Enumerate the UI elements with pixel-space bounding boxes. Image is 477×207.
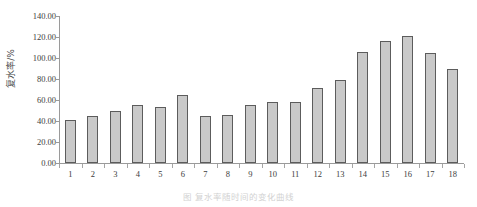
x-axis-tick-mark [374,164,375,168]
x-axis-tick-mark [329,164,330,168]
x-axis-tick-label: 15 [375,169,395,180]
bar [267,102,278,163]
bar [110,111,121,164]
x-axis-tick-label: 6 [173,169,193,180]
x-axis-tick-mark [352,164,353,168]
bar [402,36,413,163]
y-axis-tick-label: 80.00 [18,75,56,84]
x-axis-tick-mark [284,164,285,168]
y-axis-tick-label: 100.00 [18,54,56,63]
y-axis-tick-label: 0.00 [18,159,56,168]
figure-caption: 图 复水率随时间的变化曲线 [0,190,477,202]
x-axis-tick-label: 2 [83,169,103,180]
bar [87,116,98,163]
bar [357,52,368,163]
y-axis-tick-label: 40.00 [18,117,56,126]
x-axis-tick-mark [104,164,105,168]
x-axis-tick-mark [307,164,308,168]
x-axis-tick-label: 9 [240,169,260,180]
bar [155,107,166,163]
x-axis-tick-label: 16 [398,169,418,180]
x-axis-tick-label: 1 [60,169,80,180]
bar [65,120,76,163]
x-axis-tick-label: 13 [330,169,350,180]
bar [222,115,233,163]
x-axis-tick-mark [419,164,420,168]
bar [200,116,211,163]
x-axis-tick-mark [194,164,195,168]
bar [290,102,301,163]
y-axis-tick-label: 140.00 [18,12,56,21]
bar [380,41,391,163]
x-axis-tick-mark [82,164,83,168]
x-axis-tick-label: 14 [353,169,373,180]
bar [245,105,256,163]
x-axis-tick-mark [127,164,128,168]
x-axis-tick-label: 18 [443,169,463,180]
y-axis-tick-label: 20.00 [18,138,56,147]
bar-series [59,16,464,163]
bar [132,105,143,163]
y-axis-tick-labels: 140.00120.00100.0080.0060.0040.0020.000.… [18,12,56,168]
bar [177,95,188,163]
x-axis-tick-mark [149,164,150,168]
x-axis-tick-label: 7 [195,169,215,180]
x-axis-tick-label: 4 [128,169,148,180]
bar [312,88,323,163]
x-axis-tick-mark [217,164,218,168]
x-axis-tick-mark [59,164,60,168]
x-axis-tick-label: 3 [105,169,125,180]
chart-figure: 复水率/% 140.00120.00100.0080.0060.0040.002… [0,0,477,207]
x-axis-tick-labels: 123456789101112131415161718 [59,169,464,182]
x-axis-tick-mark [172,164,173,168]
x-axis-tick-label: 10 [263,169,283,180]
bar [447,69,458,164]
x-axis-tick-mark [239,164,240,168]
x-axis-tick-label: 12 [308,169,328,180]
bar [425,53,436,163]
x-axis-tick-mark [464,164,465,168]
x-axis-tick-mark [262,164,263,168]
x-axis-tick-label: 11 [285,169,305,180]
bar [335,80,346,163]
x-axis-tick-label: 8 [218,169,238,180]
bar-chart-plot-area: 复水率/% 140.00120.00100.0080.0060.0040.002… [0,0,477,207]
y-axis-title: 复水率/% [4,37,17,101]
y-axis-tick-label: 60.00 [18,96,56,105]
x-axis-tick-mark [397,164,398,168]
x-axis-tick-label: 5 [150,169,170,180]
y-axis-tick-label: 120.00 [18,33,56,42]
x-axis-tick-label: 17 [420,169,440,180]
x-axis-tick-mark [442,164,443,168]
